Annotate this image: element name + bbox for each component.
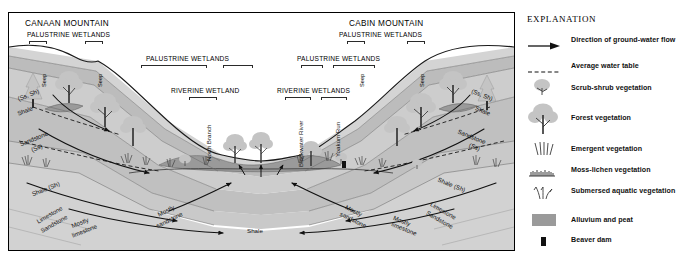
legend-label-alluvium: Alluvium and peat (571, 213, 677, 225)
legend-label-submersed: Submersed aquatic vegetation (571, 185, 677, 196)
black-square-icon (521, 234, 567, 252)
gray-swatch-icon (521, 213, 567, 231)
beaver-dam-marker (342, 161, 346, 168)
legend-label-beaver-dam: Beaver dam (571, 234, 677, 245)
seep-label-4: Seep (419, 74, 425, 87)
legend-label-forest: Forest vegetation (571, 102, 677, 123)
submersed-plant-icon (521, 184, 567, 206)
wetland-label-riverine-left: RIVERINE WETLAND (171, 87, 239, 94)
stream-label-yoakum-run: Yoakum Run (334, 122, 341, 157)
wetland-label-palustrine-right: PALUSTRINE WETLANDS (339, 31, 422, 38)
stream-label-north-branch: North Branch (205, 125, 212, 161)
wetland-label-palustrine-left: PALUSTRINE WETLANDS (27, 31, 110, 38)
bracket-palustrine-center-right-2 (333, 65, 375, 68)
bracket-palustrine-left-2 (85, 41, 103, 44)
cross-section-panel: CANAAN MOUNTAIN CABIN MOUNTAIN PALUSTRIN… (8, 12, 515, 251)
seep-label-2: Seep (97, 74, 103, 87)
mountain-label-canaan: CANAAN MOUNTAIN (25, 19, 109, 28)
emergent-grass-icon (521, 141, 567, 161)
moss-lichen-icon (521, 165, 567, 183)
shrub-icon (521, 78, 567, 102)
strata-label-center-shale: Shale (247, 227, 263, 234)
legend-label-emergent: Emergent vegetation (571, 142, 677, 154)
bracket-palustrine-center-right-1 (301, 65, 323, 68)
legend-label-moss-lichen: Moss-lichen vegetation (571, 165, 677, 175)
wetland-label-riverine-right: RIVERINE WETLANDS (277, 87, 350, 94)
bracket-riverine-right-2 (321, 97, 347, 100)
bracket-riverine-left (189, 97, 217, 100)
bracket-palustrine-center-left-2 (223, 65, 253, 68)
wetland-label-palustrine-center-left: PALUSTRINE WETLANDS (146, 55, 229, 62)
stream-label-blackwater-river: Blackwater River (297, 121, 304, 167)
bracket-palustrine-right-2 (407, 41, 425, 44)
tree-icon (521, 102, 567, 140)
legend-label-scrub-shrub: Scrub-shrub vegetation (571, 80, 677, 93)
legend-title: EXPLANATION (527, 14, 596, 24)
legend-label-water-table: Average water table (571, 62, 677, 71)
bracket-riverine-right-1 (285, 97, 311, 100)
figure-root: CANAAN MOUNTAIN CABIN MOUNTAIN PALUSTRIN… (0, 0, 677, 257)
arrow-right-icon (521, 37, 567, 55)
bracket-palustrine-left-1 (29, 41, 47, 44)
legend-label-flow-direction: Direction of ground-water flow (571, 36, 677, 45)
legend-panel: EXPLANATION Direction of ground-water fl… (521, 10, 677, 250)
bracket-palustrine-right-1 (347, 41, 365, 44)
wetland-label-palustrine-center-right: PALUSTRINE WETLANDS (297, 55, 380, 62)
mountain-label-cabin: CABIN MOUNTAIN (349, 19, 424, 28)
seep-label-1: Seep (41, 74, 47, 87)
seep-label-3: Seep (359, 74, 365, 87)
bracket-palustrine-center-left-1 (141, 65, 207, 68)
